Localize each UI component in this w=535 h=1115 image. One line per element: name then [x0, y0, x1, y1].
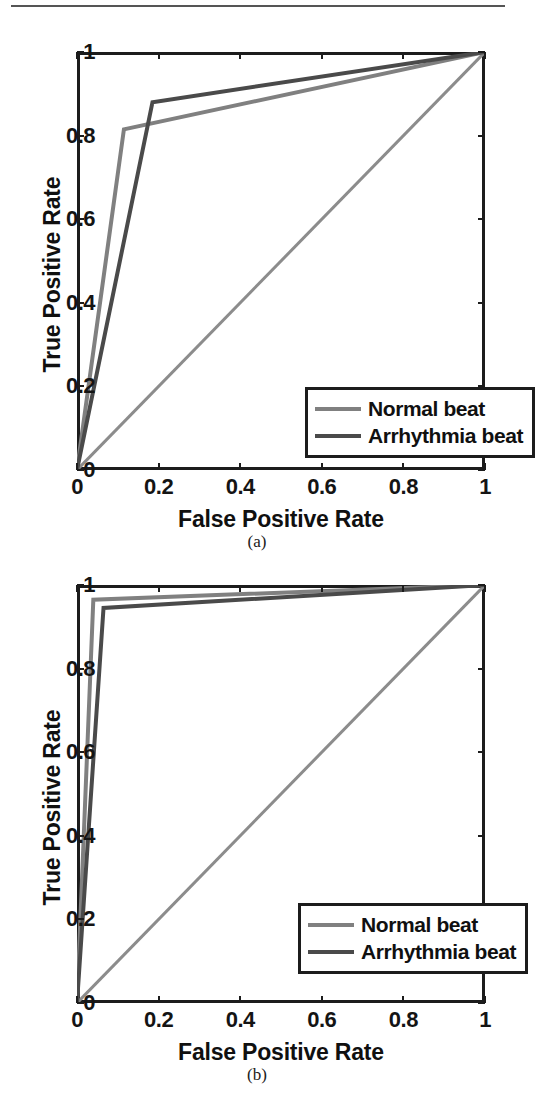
x-tick [158, 585, 160, 592]
legend-item: Arrhythmia beat [308, 938, 516, 965]
legend-a: Normal beat Arrhythmia beat [305, 387, 535, 458]
legend-label-normal-beat: Normal beat [361, 914, 478, 935]
x-tick-label: 0.4 [226, 474, 255, 500]
x-tick-label: 0.8 [389, 1007, 418, 1033]
x-tick [402, 585, 404, 592]
y-tick [478, 135, 485, 137]
roc-panel-a: 00.20.40.60.81 00.20.40.60.81 False Posi… [0, 40, 514, 540]
x-tick-label: 0.2 [144, 474, 173, 500]
x-axis-title-a: False Positive Rate [77, 506, 485, 533]
y-tick [478, 835, 485, 837]
y-tick-label: 0.8 [66, 656, 95, 682]
legend-item: Arrhythmia beat [315, 422, 523, 449]
legend-label-normal-beat: Normal beat [368, 398, 485, 419]
x-tick-label: 0 [71, 474, 83, 500]
legend-swatch-arrhythmia-beat [308, 950, 354, 954]
x-tick [402, 52, 404, 59]
x-tick [321, 52, 323, 59]
legend-label-arrhythmia-beat: Arrhythmia beat [368, 425, 523, 446]
x-tick-label: 0.6 [307, 1007, 336, 1033]
x-tick [158, 463, 160, 470]
y-tick [478, 51, 485, 53]
legend-swatch-arrhythmia-beat [315, 434, 361, 438]
y-tick-label: 0.4 [66, 290, 95, 316]
x-tick [158, 52, 160, 59]
legend-swatch-normal-beat [315, 407, 361, 411]
y-tick-label: 0.8 [66, 123, 95, 149]
x-tick-label: 1 [479, 1007, 491, 1033]
y-axis-title-b: True Positive Rate [39, 658, 66, 958]
page-top-rule [11, 5, 505, 7]
x-tick-label: 0.8 [389, 474, 418, 500]
y-tick [478, 302, 485, 304]
x-tick [484, 585, 486, 592]
y-tick-label: 1 [83, 572, 95, 598]
y-tick [478, 584, 485, 586]
legend-item: Normal beat [315, 395, 523, 422]
x-tick [321, 996, 323, 1003]
x-tick-label: 0 [71, 1007, 83, 1033]
y-tick [478, 469, 485, 471]
y-tick-label: 0.4 [66, 823, 95, 849]
x-tick-label: 0.4 [226, 1007, 255, 1033]
x-tick-label: 1 [479, 474, 491, 500]
x-tick [76, 585, 78, 592]
y-tick-label: 0 [83, 457, 95, 483]
legend-swatch-normal-beat [308, 923, 354, 927]
y-tick [478, 751, 485, 753]
panel-caption-b: (b) [0, 1065, 514, 1085]
x-tick [76, 52, 78, 59]
x-tick [402, 463, 404, 470]
y-tick [478, 668, 485, 670]
x-tick [158, 996, 160, 1003]
x-tick [402, 996, 404, 1003]
y-tick-label: 1 [83, 39, 95, 65]
x-tick [321, 463, 323, 470]
x-tick [321, 585, 323, 592]
x-tick-label: 0.2 [144, 1007, 173, 1033]
y-tick [478, 1002, 485, 1004]
x-tick [239, 52, 241, 59]
x-tick-label: 0.6 [307, 474, 336, 500]
y-tick-label: 0.2 [66, 906, 95, 932]
y-tick-label: 0.6 [66, 739, 95, 765]
x-tick [239, 463, 241, 470]
roc-panel-b: 00.20.40.60.81 00.20.40.60.81 False Posi… [0, 573, 514, 1073]
x-tick [239, 996, 241, 1003]
y-tick-label: 0.2 [66, 373, 95, 399]
x-axis-title-b: False Positive Rate [77, 1039, 485, 1066]
y-tick-label: 0 [83, 990, 95, 1016]
legend-label-arrhythmia-beat: Arrhythmia beat [361, 941, 516, 962]
y-tick [478, 218, 485, 220]
x-tick [239, 585, 241, 592]
y-axis-title-a: True Positive Rate [39, 125, 66, 425]
x-tick [484, 52, 486, 59]
legend-b: Normal beat Arrhythmia beat [298, 903, 528, 974]
panel-caption-a: (a) [0, 532, 514, 552]
legend-item: Normal beat [308, 911, 516, 938]
y-tick-label: 0.6 [66, 206, 95, 232]
